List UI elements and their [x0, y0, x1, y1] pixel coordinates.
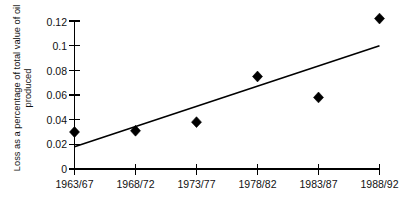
x-tick-label-1: 1968/72 — [117, 178, 155, 190]
chart-canvas: Loss as a percentage of total value of o… — [0, 0, 406, 198]
y-tick-label-4: 0.08 — [47, 65, 68, 77]
y-tick-label-3: 0.06 — [47, 89, 68, 101]
y-axis-title-line-2: produced — [23, 69, 33, 108]
scatter-chart: Loss as a percentage of total value of o… — [0, 0, 406, 198]
x-tick-label-0: 1963/67 — [56, 178, 94, 190]
y-tick-label-5: 0.1 — [52, 40, 67, 52]
x-tick-label-5: 1988/92 — [361, 178, 399, 190]
x-tick-label-3: 1978/82 — [239, 178, 277, 190]
y-tick-label-2: 0.04 — [47, 114, 68, 126]
x-tick-label-4: 1983/87 — [300, 178, 338, 190]
x-tick-label-2: 1973/77 — [178, 178, 216, 190]
y-axis-title-line-1: Loss as a percentage of total value of o… — [12, 5, 22, 171]
y-tick-label-1: 0.02 — [47, 138, 68, 150]
y-tick-label-6: 0.12 — [47, 16, 68, 28]
y-tick-label-0: 0 — [61, 163, 67, 175]
